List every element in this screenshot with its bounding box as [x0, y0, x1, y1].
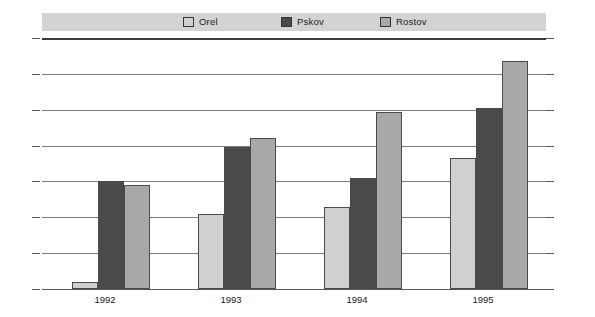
y-tick-dash-right-20	[546, 217, 554, 218]
bars	[42, 38, 546, 289]
y-tick-dash-left-50	[32, 110, 40, 111]
bar-rostov-1995[interactable]	[502, 61, 528, 289]
legend-swatch-pskov	[281, 17, 292, 27]
bar-rostov-1994[interactable]	[376, 112, 402, 289]
y-tick-dash-right-60	[546, 74, 554, 75]
y-tick-dash-left-60	[32, 74, 40, 75]
y-tick-dash-right-0	[546, 289, 554, 290]
y-tick-dash-left-10	[32, 253, 40, 254]
bar-orel-1993[interactable]	[198, 214, 224, 289]
bar-rostov-1992[interactable]	[124, 185, 150, 289]
y-tick-dash-right-30	[546, 181, 554, 182]
x-axis-label-1995: 1995	[420, 295, 546, 305]
y-tick-dash-left-70	[32, 38, 40, 39]
bar-pskov-1994[interactable]	[350, 178, 376, 289]
gridline-0	[42, 289, 546, 290]
bar-rostov-1993[interactable]	[250, 138, 276, 289]
chart-legend: Orel Pskov Rostov	[42, 13, 546, 31]
bar-orel-1992[interactable]	[72, 282, 98, 289]
x-axis-label-1994: 1994	[294, 295, 420, 305]
y-tick-dash-left-0	[32, 289, 40, 290]
y-tick-dash-left-20	[32, 217, 40, 218]
bar-orel-1995[interactable]	[450, 158, 476, 289]
x-axis-label-1992: 1992	[42, 295, 168, 305]
legend-swatch-rostov	[380, 17, 391, 27]
plot-area: 001010202030304040505060607070 199219931…	[42, 38, 546, 289]
legend-label-rostov: Rostov	[396, 17, 427, 27]
bar-pskov-1993[interactable]	[224, 147, 250, 289]
y-tick-dash-right-50	[546, 110, 554, 111]
legend-item-rostov[interactable]: Rostov	[380, 13, 427, 31]
legend-swatch-orel	[183, 17, 194, 27]
legend-item-orel[interactable]: Orel	[183, 13, 218, 31]
bar-chart: Orel Pskov Rostov 0010102020303040405050…	[0, 0, 595, 317]
y-tick-dash-right-70	[546, 38, 554, 39]
bar-pskov-1995[interactable]	[476, 108, 502, 289]
y-tick-dash-left-30	[32, 181, 40, 182]
y-tick-dash-right-40	[546, 146, 554, 147]
bar-orel-1994[interactable]	[324, 207, 350, 289]
x-axis-label-1993: 1993	[168, 295, 294, 305]
legend-label-orel: Orel	[199, 17, 218, 27]
bar-pskov-1992[interactable]	[98, 181, 124, 289]
y-tick-dash-left-40	[32, 146, 40, 147]
y-tick-dash-right-10	[546, 253, 554, 254]
legend-item-pskov[interactable]: Pskov	[281, 13, 324, 31]
legend-label-pskov: Pskov	[297, 17, 324, 27]
